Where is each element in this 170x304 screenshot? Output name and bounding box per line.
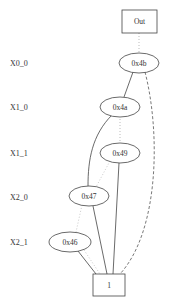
edge-0x4b-0x4a — [124, 72, 133, 97]
node-0x46-label: 0x46 — [63, 238, 78, 247]
node-0x4a-label: 0x4a — [113, 103, 128, 112]
node-0x47-label: 0x47 — [82, 192, 97, 201]
node-0x4a: 0x4a — [100, 97, 140, 117]
edge-0x47-0x46 — [76, 205, 82, 232]
node-0x4b: 0x4b — [119, 53, 159, 73]
level-label-x1-1: X1_1 — [10, 149, 28, 158]
level-label-x0-0: X0_0 — [10, 59, 28, 68]
edge-0x49-0x47 — [96, 161, 110, 187]
level-labels: X0_0 X1_0 X1_1 X2_0 X2_1 — [10, 59, 28, 247]
node-out: Out — [122, 10, 157, 33]
node-terminal-1: 1 — [93, 274, 125, 296]
node-0x46: 0x46 — [49, 232, 91, 252]
edge-0x46-1 — [78, 251, 96, 274]
edge-0x47-1 — [93, 206, 107, 274]
edge-0x49-1 — [113, 163, 119, 274]
node-0x49: 0x49 — [100, 143, 140, 163]
node-0x49-label: 0x49 — [113, 149, 128, 158]
bdd-diagram: X0_0 X1_0 X1_1 X2_0 X2_1 Out 0x4b 0x4a 0… — [0, 0, 170, 304]
node-0x47: 0x47 — [69, 186, 109, 206]
node-0x4b-label: 0x4b — [132, 59, 147, 68]
level-label-x1-0: X1_0 — [10, 103, 28, 112]
node-out-label: Out — [134, 17, 146, 26]
level-label-x2-0: X2_0 — [10, 193, 28, 202]
level-label-x2-1: X2_1 — [10, 238, 28, 247]
node-terminal-1-label: 1 — [107, 281, 111, 290]
